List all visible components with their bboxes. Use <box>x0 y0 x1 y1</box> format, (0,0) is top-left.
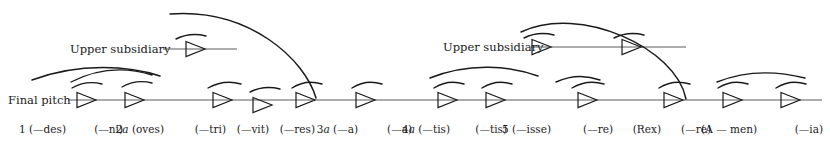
slur-over-arrow-3 <box>208 82 241 88</box>
label-3-oves-text: (oves) <box>132 123 164 135</box>
main-arrowheads-group <box>77 93 800 113</box>
label-3-oves-numeral: 2 <box>116 123 123 135</box>
bottom-labels-group: 1 (—des)(—ni)2a (oves)(—tri)(—vit)(—res)… <box>19 123 823 135</box>
slur-over-arrow-4 <box>250 88 280 92</box>
label-6-res-text: (—res) <box>280 123 315 135</box>
slur-over-arrow-10 <box>659 82 690 88</box>
label-12-re: (—re) <box>583 123 613 135</box>
label-7-a-numeral: 3 <box>317 123 324 135</box>
label-1-des-text: (—des) <box>29 123 66 135</box>
label-5-vit-text: (—vit) <box>237 123 269 135</box>
upper-subsidiary-label-right: Upper subsidiary <box>443 40 544 54</box>
slur-arc-left-mid <box>32 68 160 81</box>
large-slurs-group <box>32 14 686 99</box>
subsidiary-lines-group <box>163 47 686 49</box>
slur-over-arrow-7 <box>434 82 464 88</box>
label-6-res: (—res) <box>280 123 315 135</box>
label-11-isse-numeral: 5 <box>502 123 509 135</box>
slur-group-1-2 <box>71 70 152 82</box>
slur-over-arrow-1 <box>72 83 102 88</box>
label-15-amen-text: (A — men) <box>701 123 757 135</box>
final-pitch-label: Final pitch <box>8 93 71 107</box>
label-3-oves: 2a (oves) <box>116 123 164 135</box>
slur-group-9-10 <box>556 76 600 82</box>
label-4-tri-text: (—tri) <box>195 123 226 135</box>
label-5-vit: (—vit) <box>237 123 269 135</box>
subsidiary-arrowheads-group <box>186 40 641 57</box>
label-13-rex-text: (Rex) <box>633 123 661 135</box>
slur-over-arrow-12 <box>776 82 806 88</box>
label-7-a: 3a (—a) <box>317 123 358 135</box>
label-9-tis: 4a (—tis) <box>402 123 450 135</box>
slur-over-arrow-8 <box>482 82 512 88</box>
diagram-root: Final pitch Upper subsidiary Upper subsi… <box>0 0 830 142</box>
slur-over-arrow-5 <box>292 82 322 88</box>
slur-over-arrow-6 <box>352 82 382 88</box>
label-1-des-numeral: 1 <box>19 123 26 135</box>
label-11-isse: 5 (—isse) <box>502 123 551 135</box>
upper-subsidiary-label-left: Upper subsidiary <box>70 42 171 56</box>
slur-arc-right-mid <box>430 67 538 78</box>
small-slurs-group <box>72 34 806 92</box>
label-1-des: 1 (—des) <box>19 123 66 135</box>
label-13-rex: (Rex) <box>633 123 661 135</box>
slur-arc-right-major <box>521 23 686 99</box>
slur-arc-left-major <box>170 14 316 98</box>
slur-group-11-12 <box>717 73 805 82</box>
label-4-tri: (—tri) <box>195 123 226 135</box>
slur-over-subsidiary-left-1 <box>176 35 206 39</box>
label-9-tis-text: (—tis) <box>418 123 450 135</box>
label-12-re-text: (—re) <box>583 123 613 135</box>
label-15-amen: (A — men) <box>701 123 757 135</box>
slur-over-arrow-11 <box>718 82 748 88</box>
label-7-a-text: (—a) <box>333 123 358 135</box>
label-16-ia-text: (—ia) <box>795 123 823 135</box>
label-11-isse-text: (—isse) <box>512 123 551 135</box>
slur-over-arrow-2 <box>122 82 152 87</box>
voice-leading-diagram: Final pitch Upper subsidiary Upper subsi… <box>0 0 830 142</box>
medium-slurs-group <box>71 70 805 82</box>
slur-over-arrow-9 <box>572 82 604 88</box>
label-16-ia: (—ia) <box>795 123 823 135</box>
slur-over-subsidiary-right-1 <box>524 34 554 38</box>
